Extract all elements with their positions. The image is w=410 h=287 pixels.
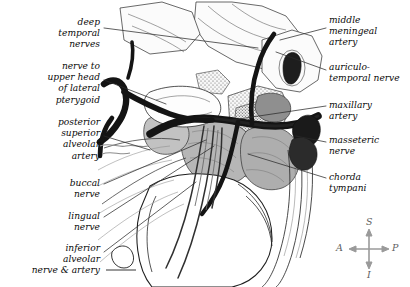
label-nerve-to-upper-head-of-lateral-pterygoid: nerve to upper head of lateral pterygoid bbox=[8, 61, 100, 106]
compass-posterior-letter: P bbox=[392, 242, 398, 253]
label-posterior-superior-alveolar-artery: posterior superior alveolar artery bbox=[8, 117, 100, 162]
label-deep-temporal-nerves: deep temporal nerves bbox=[8, 17, 100, 51]
compass-superior-letter: S bbox=[366, 216, 373, 227]
label-maxillary-artery: maxillary artery bbox=[329, 100, 409, 122]
compass-inferior-letter: I bbox=[367, 269, 371, 280]
compass-anterior-letter: A bbox=[336, 242, 343, 253]
orientation-compass bbox=[349, 229, 389, 269]
anatomical-figure: deep temporal nerves nerve to upper head… bbox=[0, 0, 410, 287]
label-middle-meningeal-artery: middle meningeal artery bbox=[329, 15, 409, 49]
label-auriculo-temporal-nerve: auriculo- temporal nerve bbox=[329, 62, 409, 84]
label-chorda-tympani: chorda tympani bbox=[329, 172, 409, 194]
label-masseteric-nerve: masseteric nerve bbox=[329, 135, 409, 157]
label-buccal-nerve: buccal nerve bbox=[8, 178, 100, 200]
label-lingual-nerve: lingual nerve bbox=[8, 211, 100, 233]
label-inferior-alveolar-nerve-and-artery: inferior alveolar nerve & artery bbox=[4, 243, 100, 277]
